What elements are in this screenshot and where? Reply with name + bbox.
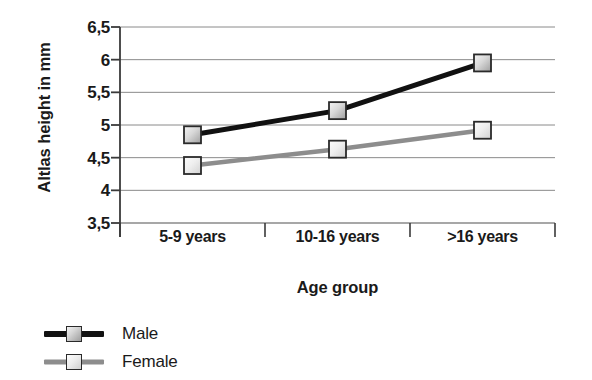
legend: Male Female <box>44 320 178 376</box>
x-axis-title: Age group <box>120 278 555 297</box>
legend-label-female: Female <box>122 352 178 372</box>
data-point-male-2[interactable] <box>474 54 491 71</box>
series-line-male <box>193 63 483 135</box>
x-axis-tick-label: 10-16 years <box>265 228 410 246</box>
data-point-female-2[interactable] <box>474 122 491 139</box>
data-point-male-0[interactable] <box>184 126 201 143</box>
line-chart: Altlas height in mm 3,544,555,566,5 5-9 … <box>0 0 592 380</box>
legend-item-female[interactable]: Female <box>44 348 178 376</box>
data-point-female-0[interactable] <box>184 157 201 174</box>
x-axis-tick-label: >16 years <box>410 228 555 246</box>
x-axis-tick-label: 5-9 years <box>120 228 265 246</box>
legend-square-marker-icon <box>66 354 82 370</box>
data-point-female-1[interactable] <box>329 141 346 158</box>
legend-key-male <box>44 323 104 345</box>
legend-key-female <box>44 351 104 373</box>
legend-label-male: Male <box>122 324 158 344</box>
legend-square-marker-icon <box>66 326 82 342</box>
data-point-male-1[interactable] <box>329 102 346 119</box>
legend-item-male[interactable]: Male <box>44 320 178 348</box>
